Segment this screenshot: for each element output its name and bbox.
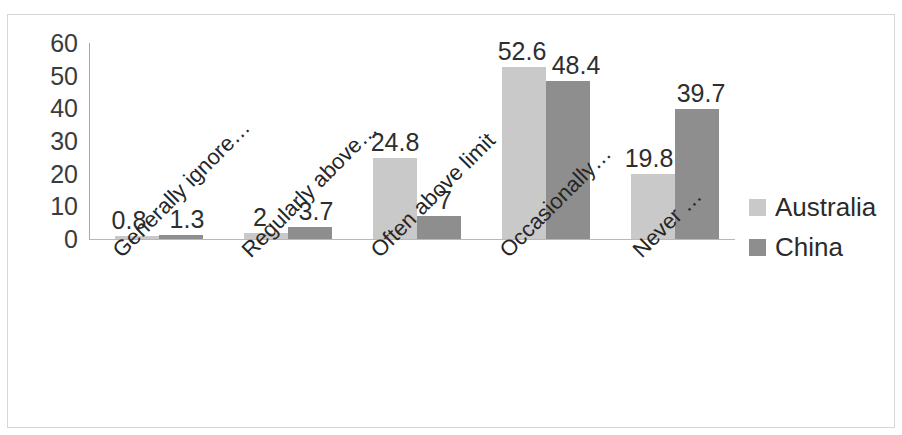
bar-group: 19.8 39.7 Never … — [619, 43, 735, 239]
legend-label: China — [775, 234, 843, 260]
x-axis-category-label: Regularly above… — [238, 118, 382, 262]
chart-legend: Australia China — [749, 187, 876, 267]
legend-swatch-icon — [749, 239, 766, 256]
legend-item-china[interactable]: China — [749, 227, 876, 267]
bar-value-label: 48.4 — [552, 53, 601, 78]
bar-value-label: 24.8 — [371, 130, 420, 155]
bar-value-label: 19.8 — [625, 146, 674, 171]
y-axis-tick-label: 30 — [50, 129, 78, 154]
legend-item-australia[interactable]: Australia — [749, 187, 876, 227]
chart-container: 60 50 40 30 20 10 0 0.8 1.3 Generally ig… — [7, 14, 895, 428]
plot-area: 60 50 40 30 20 10 0 0.8 1.3 Generally ig… — [89, 43, 735, 239]
legend-swatch-icon — [749, 199, 766, 216]
bar-group: 52.6 48.4 Occasionally… — [490, 43, 606, 239]
bar-china[interactable]: 1.3 — [159, 235, 203, 239]
bar-china[interactable]: 3.7 — [288, 227, 332, 239]
bar-value-label: 39.7 — [677, 81, 726, 106]
y-axis-tick-label: 20 — [50, 161, 78, 186]
y-axis-tick-label: 50 — [50, 63, 78, 88]
y-axis-line — [89, 43, 90, 239]
bar-value-label: 52.6 — [498, 39, 547, 64]
y-axis-tick-label: 60 — [50, 31, 78, 56]
legend-label: Australia — [775, 194, 876, 220]
bar-group: 24.8 7 Often above limit — [361, 43, 477, 239]
y-axis-tick-label: 40 — [50, 96, 78, 121]
bar-group: 2 3.7 Regularly above… — [232, 43, 348, 239]
y-axis-tick-label: 0 — [64, 227, 78, 252]
bar-group: 0.8 1.3 Generally ignore… — [103, 43, 219, 239]
y-axis-tick-label: 10 — [50, 194, 78, 219]
